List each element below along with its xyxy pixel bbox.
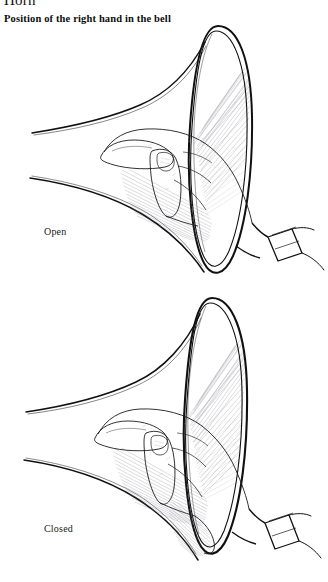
bell-upper-contour-inner (28, 318, 201, 414)
bell-upper-contour (32, 42, 205, 133)
horn-bell-hand-closed-illustration (0, 290, 328, 582)
shirt-cuff (268, 229, 302, 261)
bell-lower-contour-inner (32, 176, 202, 266)
thumb-crease (112, 146, 152, 151)
thumb-crease (106, 428, 146, 433)
wrist-lower (236, 246, 260, 258)
figure-open (0, 20, 328, 285)
figure-closed (0, 290, 328, 582)
sleeve-lower-edge (299, 541, 321, 558)
sleeve-upper-edge (292, 228, 314, 230)
figure-caption-closed: Closed (44, 523, 73, 534)
instrument-heading: Horn (4, 0, 36, 8)
hand-back-contour (98, 409, 249, 509)
thumb (95, 421, 168, 451)
sleeve-upper-edge (289, 514, 311, 516)
knuckle-marks (142, 422, 200, 475)
fingernail-shading (161, 158, 170, 164)
wrist-upper (252, 223, 268, 237)
bell-lower-contour (24, 460, 198, 560)
fingernail (157, 152, 174, 171)
bell-lower-contour (30, 178, 204, 272)
horn-bell-hand-open-illustration (0, 20, 328, 285)
wrist-lower (232, 532, 256, 544)
wrist-upper (249, 509, 265, 523)
bell-upper-contour (26, 314, 200, 412)
cuff-fold-lower (272, 528, 296, 536)
fingernail-shading (155, 441, 164, 447)
figure-caption-open: Open (44, 226, 66, 237)
cuff-fold-lower (275, 241, 299, 249)
shirt-cuff (265, 515, 299, 549)
thumb (101, 140, 174, 169)
bell-lower-contour-inner (26, 458, 196, 554)
sleeve-lower-edge (302, 253, 324, 270)
index-finger (144, 431, 175, 504)
bell-upper-contour-inner (34, 46, 206, 135)
